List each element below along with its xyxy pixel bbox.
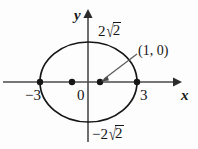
point-1-0 [97,79,103,85]
x-tick-label-3: 3 [140,88,148,103]
origin-label: 0 [77,88,85,103]
y-axis-arrowhead [83,9,92,18]
callout-leader-line [104,54,137,79]
radical-body-top: 2 [113,22,122,38]
point-3 [134,79,140,85]
radical-bottom: √2 [108,126,124,142]
x-axis-arrowhead [173,77,182,86]
ellipse-figure: y x 2√2 −2√2 −3 0 3 (1, 0) [0,0,198,149]
y-intercept-top-label: 2√2 [98,23,121,39]
radical-top: √2 [106,23,122,39]
point-minus-3 [37,79,43,85]
callout-arrowhead [101,76,109,81]
x-tick-label-minus-3: −3 [25,88,41,103]
x-axis-label: x [181,88,189,103]
radical-body-bottom: 2 [115,125,124,141]
y-axis-label: y [74,8,81,23]
point-minus-1-focus [69,79,75,85]
point-callout-label: (1, 0) [138,44,168,58]
y-bottom-prefix: −2 [92,126,108,142]
y-top-coefficient: 2 [98,23,106,39]
y-intercept-bottom-label: −2√2 [92,126,124,142]
